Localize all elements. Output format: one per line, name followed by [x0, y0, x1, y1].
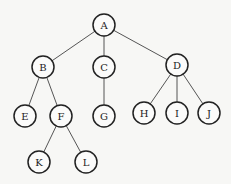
node-e: E	[14, 105, 36, 127]
node-label: K	[35, 157, 43, 168]
node-label: D	[173, 60, 181, 71]
tree-diagram: ABCDEFGHIJKL	[0, 0, 231, 184]
node-label: G	[100, 111, 108, 122]
node-l: L	[75, 151, 97, 173]
node-label: H	[140, 108, 149, 119]
node-label: A	[99, 20, 108, 31]
edge-d-j	[183, 74, 203, 104]
node-label: E	[21, 111, 28, 122]
node-f: F	[50, 105, 72, 127]
edge-b-f	[47, 77, 57, 105]
edge-f-k	[44, 126, 57, 152]
edge-f-l	[66, 126, 80, 153]
node-h: H	[133, 102, 155, 124]
node-i: I	[166, 102, 188, 124]
node-c: C	[93, 56, 115, 78]
edge-a-d	[114, 30, 168, 59]
node-label: F	[58, 111, 65, 122]
node-b: B	[32, 56, 54, 78]
node-g: G	[93, 105, 115, 127]
node-label: J	[206, 108, 211, 119]
tree-canvas: ABCDEFGHIJKL	[0, 0, 231, 184]
edges-group	[29, 30, 203, 152]
node-k: K	[28, 151, 50, 173]
node-label: C	[100, 62, 108, 73]
node-label: L	[83, 157, 90, 168]
node-label: B	[39, 62, 46, 73]
node-j: J	[198, 102, 220, 124]
node-d: D	[166, 54, 188, 76]
edge-d-h	[150, 74, 171, 104]
node-a: A	[93, 14, 115, 36]
edge-b-e	[29, 77, 39, 105]
edge-a-b	[52, 31, 95, 61]
node-label: I	[175, 108, 179, 119]
